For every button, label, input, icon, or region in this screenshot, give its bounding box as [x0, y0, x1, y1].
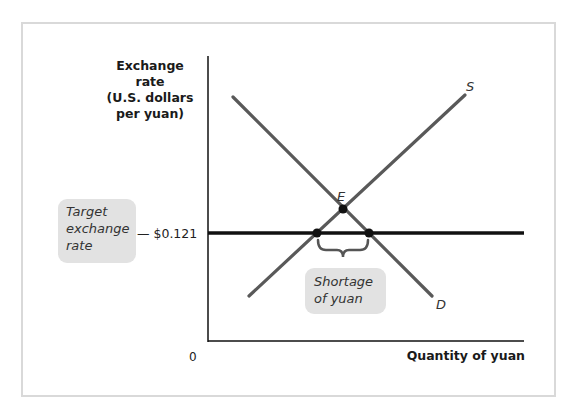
callout-line: exchange [66, 220, 136, 237]
equilibrium-label: E [337, 189, 345, 204]
y-axis-title-line: Exchange rate [100, 58, 200, 90]
y-axis-title-line: (U.S. dollars [100, 90, 200, 106]
demand-curve [233, 97, 432, 296]
origin-label: 0 [189, 350, 197, 364]
supply-curve [249, 95, 465, 296]
callout-line: Shortage [314, 273, 386, 290]
supply-label: S [466, 79, 474, 94]
y-axis-title-line: per yuan) [100, 106, 200, 122]
callout-line: rate [66, 237, 136, 254]
target-rate-callout: Target exchange rate [58, 199, 136, 263]
callout-line: Target [66, 203, 136, 220]
x-axis-title: Quantity of yuan [405, 348, 525, 363]
quantity-demanded-point [365, 229, 374, 238]
y-axis-title: Exchange rate (U.S. dollars per yuan) [100, 58, 200, 122]
quantity-supplied-point [313, 229, 322, 238]
demand-label: D [436, 297, 446, 312]
callout-line: of yuan [314, 290, 386, 307]
shortage-brace [318, 240, 368, 257]
shortage-callout: Shortage of yuan [305, 268, 386, 314]
y-tick-label: — $0.121 [137, 226, 197, 241]
equilibrium-point [339, 205, 348, 214]
